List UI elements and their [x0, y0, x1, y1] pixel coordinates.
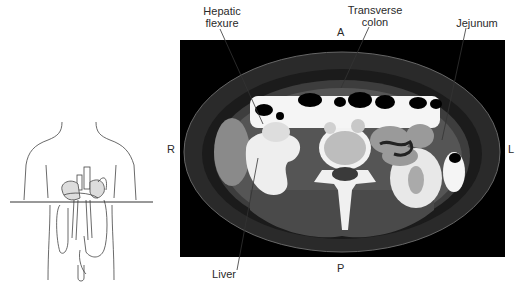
- label-jejunum: Jejunum: [447, 17, 507, 29]
- label-hepatic-line1: Hepatic: [192, 5, 252, 17]
- orientation-posterior: P: [337, 262, 344, 274]
- orientation-left: L: [508, 143, 514, 155]
- label-hepatic-flexure: Hepatic flexure: [192, 5, 252, 29]
- label-transverse-colon: Transverse colon: [340, 4, 410, 28]
- label-transverse-line1: Transverse: [340, 4, 410, 16]
- label-transverse-line2: colon: [340, 16, 410, 28]
- orientation-anterior: A: [337, 26, 344, 38]
- body-outline-diagram: [0, 60, 180, 285]
- label-hepatic-line2: flexure: [192, 17, 252, 29]
- ct-scan-image: [180, 40, 505, 257]
- label-liver: Liver: [199, 268, 249, 280]
- orientation-right: R: [167, 143, 175, 155]
